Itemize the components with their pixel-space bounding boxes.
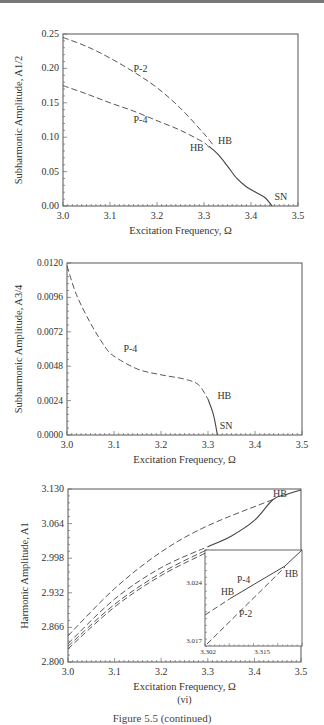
inset-annotation: HB [285,569,298,579]
chart-subharmonic-a-three-quarters: 3.03.13.23.33.43.50.00000.00240.00480.00… [0,230,324,465]
x-tick-label: 3.5 [296,439,309,450]
plot-frame [67,263,302,435]
inset-x-tick: 3.315 [254,648,270,656]
panel-label: (vi) [177,694,191,706]
y-tick-label: 3.130 [42,483,65,494]
curve-annotation: P-4 [123,343,137,354]
x-tick-label: 3.4 [249,439,262,450]
curve-annotation: HB [218,135,232,146]
y-tick-label: 0.0024 [37,396,63,406]
y-tick-label: 0.0096 [37,292,63,302]
x-tick-label: 3.3 [198,210,211,221]
y-tick-label: 0.0048 [37,361,63,371]
y-tick-label: 0.0120 [37,258,63,268]
x-tick-label: 3.3 [202,666,215,677]
y-tick-label: 2.998 [42,552,65,563]
chart-harmonic-a1: 3.03.13.23.33.43.52.8002.8662.9322.9983.… [0,460,324,710]
y-axis-label: Subharmonic Amplitude, A1/2 [13,56,24,185]
y-tick-label: 0.20 [42,62,60,73]
inset-annotation: HB [221,587,234,597]
x-tick-label: 3.1 [108,439,121,450]
curve-annotation: P-4 [134,114,148,125]
series-line [63,37,213,145]
y-tick-label: 0.00 [42,200,60,211]
y-tick-label: 0.15 [42,97,60,108]
y-tick-label: 2.800 [42,656,65,667]
inset-x-tick: 3.302 [200,648,216,656]
series-line [68,552,208,649]
x-tick-label: 3.2 [155,439,168,450]
y-tick-label: 2.866 [42,621,65,632]
x-tick-label: 3.4 [245,210,258,221]
x-tick-label: 3.3 [202,439,215,450]
series-line [209,146,272,206]
figure-caption: Figure 5.5 (continued) [0,712,324,724]
x-tick-label: 3.2 [151,210,164,221]
chart-subharmonic-a-half: 3.03.13.23.33.43.50.000.050.100.150.200.… [0,0,324,240]
y-tick-label: 0.0000 [37,430,63,440]
x-axis-label: Excitation Frequency, Ω [133,681,236,692]
x-tick-label: 3.1 [104,210,117,221]
series-line [68,549,208,646]
x-tick-label: 3.5 [292,210,305,221]
x-tick-label: 3.1 [108,666,121,677]
curve-annotation: SN [275,191,288,202]
inset-y-tick: 3.017 [186,637,202,645]
curve-annotation: HB [273,488,287,499]
x-tick-label: 3.4 [248,666,261,677]
x-tick-label: 3.0 [57,210,70,221]
y-tick-label: 2.932 [42,587,65,598]
series-line [208,399,217,435]
y-tick-label: 0.25 [42,28,60,39]
x-tick-label: 3.2 [155,666,168,677]
curve-annotation: HB [190,142,204,153]
inset-annotation: P-4 [237,575,250,585]
series-line [208,490,301,547]
inset-annotation: P-2 [239,609,252,619]
curve-annotation: SN [220,420,233,431]
curve-annotation: HB [217,390,231,401]
x-tick-label: 3.0 [61,439,74,450]
y-tick-label: 0.10 [42,131,60,142]
plot-frame [63,34,298,206]
x-tick-label: 3.0 [62,666,75,677]
y-tick-label: 3.064 [42,518,65,529]
y-axis-label: Harmonic Amplitude, A1 [19,522,30,628]
series-line [67,266,208,399]
y-tick-label: 0.05 [42,166,60,177]
inset-y-tick: 3.024 [186,579,202,587]
x-tick-label: 3.5 [295,666,308,677]
y-axis-label: Subharmonic Amplitude, A3/4 [13,284,24,413]
curve-annotation: P-2 [134,63,148,74]
y-tick-label: 0.0072 [37,327,63,337]
